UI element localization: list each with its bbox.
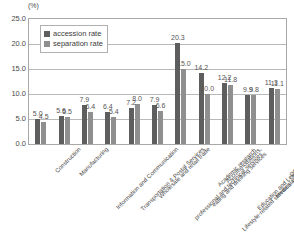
bar-group <box>239 19 262 144</box>
bar-accession-rate <box>59 116 64 144</box>
bar-accession-rate <box>82 105 87 145</box>
bar-value-label-accession: 20.3 <box>167 34 189 41</box>
x-axis-category-label: Manufacturing <box>78 146 110 178</box>
bar-separation-rate <box>275 89 280 145</box>
bar-separation-rate <box>228 85 233 144</box>
bar-group <box>146 19 169 144</box>
x-axis-category-label: Other services <box>289 146 294 178</box>
bar-accession-rate <box>199 73 204 144</box>
bar-value-label-separation: 10.0 <box>196 85 218 92</box>
bar-value-label-accession: 7.9 <box>73 96 95 103</box>
bar-accession-rate <box>152 105 157 145</box>
bar-accession-rate <box>105 112 110 144</box>
y-axis-tick-label: 5.0 <box>2 114 26 123</box>
x-axis-category-label: Construction <box>54 146 82 174</box>
bar-accession-rate <box>269 88 274 145</box>
legend-label-accession: accession rate <box>53 29 101 39</box>
x-axis-category-labels: ConstructionManufacturingInformation and… <box>28 146 287 251</box>
y-axis-tick-label: 20.0 <box>2 39 26 48</box>
bar-separation-rate <box>88 112 93 144</box>
bar-separation-rate <box>251 95 256 144</box>
chart-legend: accession rate separation rate <box>40 25 108 53</box>
bar-separation-rate <box>111 117 116 144</box>
bar-separation-rate <box>41 122 46 145</box>
y-axis-unit-label: (%) <box>28 2 39 9</box>
bar-accession-rate <box>35 119 40 144</box>
legend-item-separation-rate: separation rate <box>44 39 103 49</box>
bar-value-label-separation: 11.8 <box>220 76 242 83</box>
legend-swatch-icon-separation <box>44 41 50 47</box>
bar-value-label-separation: 11.1 <box>266 80 288 87</box>
legend-item-accession-rate: accession rate <box>44 29 103 39</box>
bar-value-label-accession: 14.2 <box>190 64 212 71</box>
bar-separation-rate <box>181 69 186 144</box>
y-axis-tick-label: 15.0 <box>2 64 26 73</box>
bar-group <box>193 19 216 144</box>
bar-separation-rate <box>158 111 163 144</box>
legend-label-separation: separation rate <box>53 39 103 49</box>
bar-separation-rate <box>205 94 210 144</box>
bar-value-label-separation: 5.5 <box>56 108 78 115</box>
bar-separation-rate <box>65 117 70 145</box>
bar-chart: (%) 5.04.55.65.57.96.46.45.47.28.07.96.6… <box>0 0 294 251</box>
bar-accession-rate <box>222 83 227 144</box>
y-axis-tick-label: 10.0 <box>2 89 26 98</box>
bar-accession-rate <box>245 95 250 145</box>
bar-accession-rate <box>129 108 134 144</box>
bar-group <box>122 19 145 144</box>
y-axis-tick-label: 25.0 <box>2 14 26 23</box>
bar-separation-rate <box>135 104 140 144</box>
x-axis-category-label: Accommodations,eating and drinking servi… <box>206 146 268 208</box>
legend-swatch-icon-accession <box>44 31 50 37</box>
y-axis-tick-label: 0.0 <box>2 139 26 148</box>
bar-accession-rate <box>175 43 180 145</box>
bar-value-label-separation: 5.4 <box>103 108 125 115</box>
